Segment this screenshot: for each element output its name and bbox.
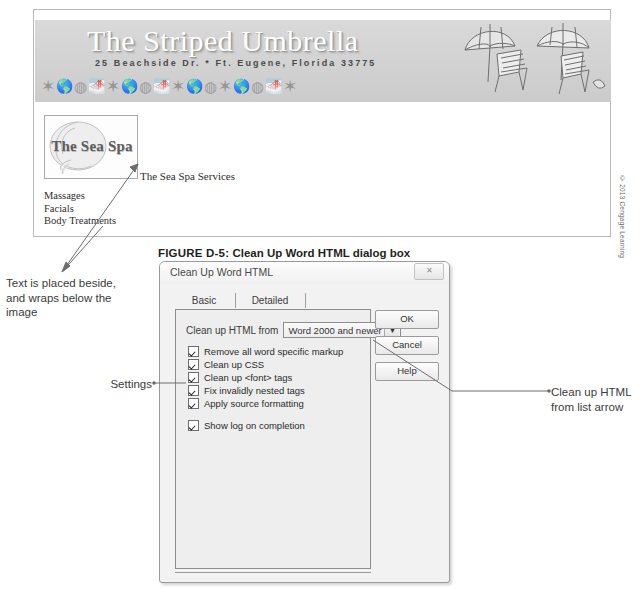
option-clean-up-font-tags[interactable]: Clean up <font> tags xyxy=(188,372,343,384)
checkbox-icon[interactable] xyxy=(188,346,199,357)
starfish-icon: ✶ xyxy=(218,78,232,95)
starfish-icon: ✶ xyxy=(171,78,185,95)
cleanup-source-row: Clean up HTML from Word 2000 and newer ▼ xyxy=(186,322,401,338)
shell-icon: 🌁 xyxy=(265,79,282,93)
page-root: The Striped Umbrella 25 Beachside Dr. * … xyxy=(0,0,642,603)
shell-icon: 🌁 xyxy=(153,79,170,93)
checkbox-icon[interactable] xyxy=(188,420,199,431)
starfish-icon: ✶ xyxy=(106,78,120,95)
clean-up-word-html-dialog: Clean Up Word HTML ✕ Basic Detailed Clea… xyxy=(159,261,450,583)
figure-caption: FIGURE D-5: Clean Up Word HTML dialog bo… xyxy=(158,247,410,259)
ok-button[interactable]: OK xyxy=(375,310,439,329)
dialog-body: Basic Detailed Clean up HTML from Word 2… xyxy=(166,286,443,575)
beach-umbrella-illustration xyxy=(457,20,607,102)
sanddollar-icon: ◍ xyxy=(251,79,264,94)
sanddollar-icon: ◍ xyxy=(139,79,152,94)
sanddollar-icon: ◍ xyxy=(74,79,87,94)
starfish-icon: ✶ xyxy=(41,78,55,95)
dialog-title: Clean Up Word HTML xyxy=(170,266,273,278)
copyright-credit: © 2013 Cengage Learning xyxy=(619,175,626,258)
cancel-button[interactable]: Cancel xyxy=(375,336,439,355)
sea-spa-image: The Sea Spa xyxy=(44,115,138,179)
option-apply-source-formatting[interactable]: Apply source formatting xyxy=(188,398,343,410)
dialog-button-column: OK Cancel Help xyxy=(375,310,439,388)
dialog-bottom-rule xyxy=(175,572,371,573)
tab-detailed[interactable]: Detailed xyxy=(239,292,301,309)
dialog-panel-basic: Clean up HTML from Word 2000 and newer ▼… xyxy=(175,309,371,569)
list-item: Body Treatments xyxy=(44,215,116,228)
option-label: Show log on completion xyxy=(204,420,305,431)
webpage-preview-panel: The Striped Umbrella 25 Beachside Dr. * … xyxy=(33,9,611,237)
option-remove-word-markup[interactable]: Remove all word specific markup xyxy=(188,346,343,358)
checkbox-icon[interactable] xyxy=(188,398,199,409)
shell-icon: 🌎 xyxy=(233,79,250,93)
help-button[interactable]: Help xyxy=(375,362,439,381)
option-label: Clean up <font> tags xyxy=(204,372,292,383)
sanddollar-icon: ◍ xyxy=(204,79,217,94)
dialog-titlebar: Clean Up Word HTML ✕ xyxy=(160,262,449,284)
list-item: Massages xyxy=(44,190,116,203)
figure-title: Clean Up Word HTML dialog box xyxy=(232,247,410,259)
option-label: Remove all word specific markup xyxy=(204,346,343,357)
checkbox-icon[interactable] xyxy=(188,372,199,383)
option-show-log-on-completion[interactable]: Show log on completion xyxy=(188,420,343,432)
banner-address: 25 Beachside Dr. * Ft. Eugene, Florida 3… xyxy=(95,58,376,68)
sea-spa-logo-text: The Sea Spa xyxy=(49,138,135,155)
cleanup-from-value: Word 2000 and newer xyxy=(284,325,381,336)
shell-icon: 🌎 xyxy=(121,79,138,93)
option-clean-up-css[interactable]: Clean up CSS xyxy=(188,359,343,371)
option-label: Apply source formatting xyxy=(204,398,304,409)
sea-spa-services-heading: The Sea Spa Services xyxy=(140,170,235,182)
services-list: Massages Facials Body Treatments xyxy=(44,190,116,228)
figure-label: FIGURE D-5: xyxy=(158,247,229,259)
site-banner: The Striped Umbrella 25 Beachside Dr. * … xyxy=(35,20,611,102)
close-icon[interactable]: ✕ xyxy=(414,263,444,280)
annotation-text-placed: Text is placed beside, and wraps below t… xyxy=(6,276,124,320)
tab-basic[interactable]: Basic xyxy=(175,292,233,309)
option-label: Clean up CSS xyxy=(204,359,264,370)
starfish-icon: ✶ xyxy=(283,78,297,95)
annotation-settings: Settings xyxy=(92,377,152,392)
option-label: Fix invalidly nested tags xyxy=(204,385,305,396)
banner-title: The Striped Umbrella xyxy=(87,24,359,58)
shell-icon: 🌎 xyxy=(56,79,73,93)
dialog-tabstrip: Basic Detailed xyxy=(175,292,375,309)
cleanup-from-label: Clean up HTML from xyxy=(186,325,278,336)
option-fix-nested-tags[interactable]: Fix invalidly nested tags xyxy=(188,385,343,397)
tab-separator xyxy=(235,293,236,308)
cleanup-options-group: Remove all word specific markup Clean up… xyxy=(188,346,343,433)
shell-icon: 🌎 xyxy=(186,79,203,93)
tab-separator xyxy=(305,293,306,308)
checkbox-icon[interactable] xyxy=(188,385,199,396)
checkbox-icon[interactable] xyxy=(188,359,199,370)
shell-icon: 🌁 xyxy=(88,79,105,93)
list-item: Facials xyxy=(44,203,116,216)
annotation-list-arrow: Clean up HTML from list arrow xyxy=(551,385,639,414)
